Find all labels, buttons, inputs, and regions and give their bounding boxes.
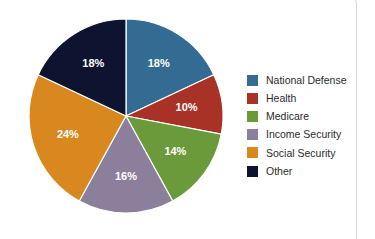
legend-item-income-security[interactable]: Income Security [247,126,375,144]
pie-slice-group [29,19,223,213]
pie-slice-value-label: 16% [115,170,137,182]
legend-item-other[interactable]: Other [247,162,375,180]
chart-legend: National Defense Health Medicare Income … [247,71,375,180]
pie-slice-value-label: 14% [164,145,186,157]
legend-item-national-defense[interactable]: National Defense [247,71,375,89]
pie-slice-value-label: 18% [148,57,170,69]
pie-slice-value-label: 10% [176,101,198,113]
legend-swatch-icon [247,75,258,86]
legend-item-label: Medicare [266,111,309,122]
legend-item-label: Other [266,166,292,177]
legend-item-label: Health [266,93,296,104]
legend-swatch-icon [247,93,258,104]
pie-chart-page: 18%10%14%16%24%18% National Defense Heal… [0,0,375,239]
pie-chart-figure: 18%10%14%16%24%18% [0,0,240,239]
legend-swatch-icon [247,129,258,140]
pie-chart-svg: 18%10%14%16%24%18% [0,0,240,239]
pie-slice-value-label: 24% [57,128,79,140]
pie-slice-value-label: 18% [82,57,104,69]
legend-item-label: Income Security [266,129,341,140]
legend-swatch-icon [247,147,258,158]
legend-item-label: Social Security [266,148,335,159]
legend-item-health[interactable]: Health [247,89,375,107]
legend-swatch-icon [247,111,258,122]
legend-item-social-security[interactable]: Social Security [247,144,375,162]
legend-item-label: National Defense [266,75,347,86]
legend-swatch-icon [247,166,258,177]
legend-item-medicare[interactable]: Medicare [247,107,375,125]
